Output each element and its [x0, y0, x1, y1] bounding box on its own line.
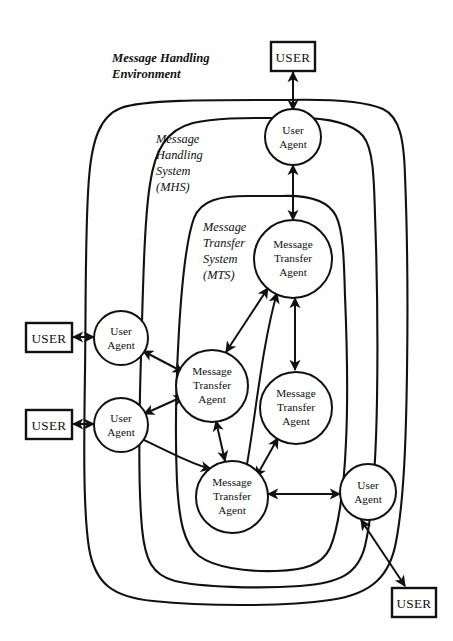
node-ua-bottom-label-1: User	[357, 479, 379, 491]
node-user-left-2[interactable]: USER	[26, 410, 72, 439]
zone-label-mts-line-4: (MTS)	[203, 268, 235, 282]
zone-label-mts: Message Transfer System (MTS)	[202, 220, 247, 282]
link-mta-left-mta-top	[226, 288, 268, 352]
node-user-bottom-label: USER	[397, 596, 432, 611]
node-ua-left-2[interactable]: User Agent	[94, 398, 148, 452]
zone-label-mhe: Message Handling Environment	[111, 51, 210, 81]
node-ua-top-label-1: User	[282, 124, 304, 136]
node-mta-right-label-3: Agent	[282, 415, 310, 427]
node-user-top-label: USER	[276, 50, 311, 65]
node-user-left-2-label: USER	[32, 418, 67, 433]
zone-label-mhs-line-1: Message	[155, 132, 200, 146]
node-mta-top-label-3: Agent	[279, 266, 307, 278]
zone-label-mhe-line-2: Environment	[111, 67, 181, 81]
node-ua-left-2-label-1: User	[110, 412, 132, 424]
node-mta-left[interactable]: Message Transfer Agent	[176, 350, 248, 422]
zone-label-mts-line-1: Message	[202, 220, 247, 234]
node-user-bottom[interactable]: USER	[392, 588, 436, 617]
node-ua-bottom[interactable]: User Agent	[340, 464, 396, 520]
node-mta-top[interactable]: Message Transfer Agent	[254, 220, 332, 298]
node-mta-bottom-label-2: Transfer	[213, 490, 251, 502]
zone-label-mts-line-2: Transfer	[203, 236, 245, 250]
node-mta-bottom[interactable]: Message Transfer Agent	[196, 461, 268, 533]
zone-label-mhs: Message Handling System (MHS)	[155, 132, 203, 194]
node-mta-bottom-label-1: Message	[212, 476, 252, 488]
node-ua-left-1-label-1: User	[110, 325, 132, 337]
node-user-top[interactable]: USER	[271, 42, 315, 71]
zone-label-mhs-line-2: Handling	[155, 148, 203, 162]
node-mta-left-label-1: Message	[192, 365, 232, 377]
zone-label-mhe-line-1: Message Handling	[111, 51, 210, 65]
node-ua-left-2-label-2: Agent	[107, 426, 135, 438]
node-ua-bottom-label-2: Agent	[354, 493, 382, 505]
node-ua-top[interactable]: User Agent	[265, 109, 321, 165]
node-ua-left-1-label-2: Agent	[107, 339, 135, 351]
mhs-architecture-diagram: USER User Agent Message Transfer Agent U…	[0, 0, 453, 641]
node-mta-right-label-1: Message	[276, 387, 316, 399]
node-mta-right-label-2: Transfer	[277, 401, 315, 413]
link-mta-bottom-mta-right	[256, 438, 278, 477]
zone-label-mts-line-3: System	[203, 252, 237, 266]
link-mta-left-mta-bottom	[216, 421, 225, 461]
node-mta-left-label-2: Transfer	[193, 379, 231, 391]
zone-label-mhs-line-4: (MHS)	[156, 180, 190, 194]
node-mta-top-label-2: Transfer	[274, 252, 312, 264]
node-mta-top-label-1: Message	[273, 238, 313, 250]
node-mta-right[interactable]: Message Transfer Agent	[260, 372, 332, 444]
node-user-left-1-label: USER	[32, 331, 67, 346]
node-ua-top-label-2: Agent	[279, 138, 307, 150]
zone-label-mhs-line-3: System	[156, 164, 190, 178]
link-mta-bottom-mta-top	[247, 293, 277, 464]
node-ua-left-1[interactable]: User Agent	[94, 311, 148, 365]
node-mta-left-label-3: Agent	[198, 393, 226, 405]
node-mta-bottom-label-3: Agent	[218, 504, 246, 516]
node-user-left-1[interactable]: USER	[26, 323, 72, 352]
diagram-canvas: USER User Agent Message Transfer Agent U…	[0, 0, 453, 641]
